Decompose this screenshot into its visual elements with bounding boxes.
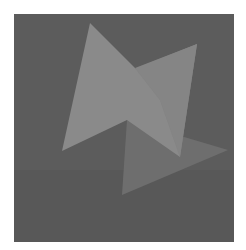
abstract-image <box>0 0 246 250</box>
triangles-artwork <box>0 0 246 250</box>
